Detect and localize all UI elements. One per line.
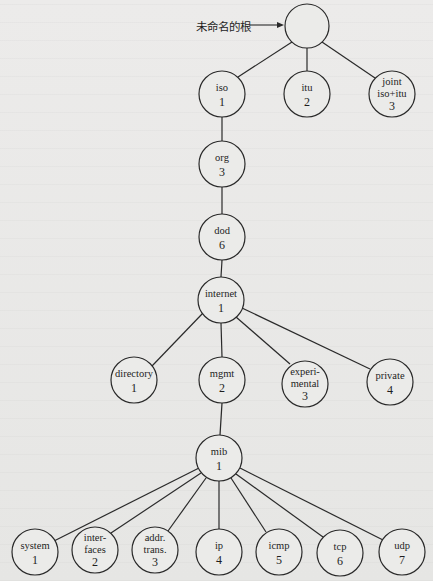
node-directory: directory 1 [111, 357, 157, 403]
svg-text:1: 1 [131, 381, 137, 395]
svg-text:1: 1 [218, 301, 224, 315]
node-private: private 4 [367, 359, 413, 405]
svg-text:private: private [375, 370, 404, 381]
node-interfaces: inter- faces 2 [72, 527, 118, 573]
node-mib: mib 1 [196, 435, 242, 481]
mib-tree-diagram: iso 1 itu 2 joint iso+itu 3 org 3 dod 6 … [0, 0, 433, 581]
svg-text:1: 1 [219, 95, 225, 109]
node-iso: iso 1 [199, 71, 245, 117]
svg-text:3: 3 [152, 555, 158, 569]
node-addr-trans: addr. trans. 3 [132, 527, 178, 573]
node-icmp: icmp 5 [256, 529, 302, 575]
node-internet: internet 1 [198, 277, 244, 323]
svg-text:directory: directory [115, 368, 154, 379]
svg-text:itu: itu [301, 82, 313, 93]
svg-text:4: 4 [216, 553, 222, 567]
node-experimental: experi- mental 3 [282, 361, 328, 407]
svg-text:ip: ip [215, 540, 223, 551]
svg-text:iso+itu: iso+itu [377, 88, 407, 99]
node-ip: ip 4 [196, 529, 242, 575]
svg-text:1: 1 [32, 553, 38, 567]
node-dod: dod 6 [199, 214, 245, 260]
svg-text:3: 3 [219, 165, 225, 179]
svg-text:5: 5 [276, 553, 282, 567]
svg-text:4: 4 [387, 383, 393, 397]
svg-text:mental: mental [291, 378, 320, 389]
svg-text:1: 1 [216, 459, 222, 473]
node-org: org 3 [199, 141, 245, 187]
node-system: system 1 [12, 529, 58, 575]
svg-text:experi-: experi- [290, 366, 320, 377]
node-itu: itu 2 [284, 71, 330, 117]
svg-text:inter-: inter- [84, 532, 107, 543]
svg-text:2: 2 [219, 381, 225, 395]
node-root [285, 4, 329, 48]
svg-text:2: 2 [92, 555, 98, 569]
svg-text:system: system [20, 540, 49, 551]
svg-text:icmp: icmp [269, 540, 290, 551]
node-joint-iso-itu: joint iso+itu 3 [369, 71, 415, 117]
svg-text:tcp: tcp [334, 541, 347, 552]
svg-text:dod: dod [214, 225, 231, 236]
svg-text:3: 3 [389, 99, 395, 113]
node-tcp: tcp 6 [317, 530, 363, 576]
svg-text:2: 2 [304, 95, 310, 109]
svg-text:faces: faces [84, 544, 106, 555]
svg-text:mib: mib [211, 446, 227, 457]
node-mgmt: mgmt 2 [199, 357, 245, 403]
svg-text:iso: iso [216, 82, 228, 93]
svg-text:3: 3 [302, 389, 308, 403]
root-arrow-icon [250, 22, 284, 28]
svg-text:7: 7 [399, 553, 405, 567]
svg-text:internet: internet [205, 288, 237, 299]
svg-text:6: 6 [219, 238, 225, 252]
svg-text:6: 6 [337, 554, 343, 568]
node-udp: udp 7 [379, 529, 425, 575]
svg-text:udp: udp [394, 540, 410, 551]
svg-text:joint: joint [381, 76, 401, 87]
svg-text:mgmt: mgmt [210, 368, 235, 379]
svg-text:trans.: trans. [143, 544, 166, 555]
svg-text:addr.: addr. [145, 532, 166, 543]
svg-text:org: org [215, 152, 230, 163]
